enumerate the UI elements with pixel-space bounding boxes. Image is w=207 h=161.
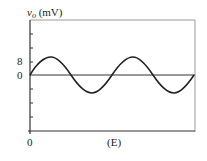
y-axis-label: vo (mV) [27,6,63,20]
y-axis-unit: (mV) [36,6,63,19]
figure-caption: (E) [107,136,121,149]
y-tick-label-0: 0 [17,69,23,81]
chart: vo (mV) 8 0 0 (E) [0,0,207,161]
x-tick-label-0: 0 [27,136,33,148]
y-tick-label-8: 8 [17,55,23,67]
